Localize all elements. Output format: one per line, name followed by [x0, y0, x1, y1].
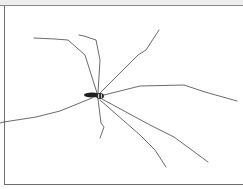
body-marking: [101, 94, 102, 98]
spider-legs: [0, 30, 237, 167]
body-marking: [98, 94, 99, 98]
spider-photo: [0, 0, 243, 189]
spider-cephalothorax: [96, 93, 104, 99]
spider-body: [84, 92, 104, 99]
